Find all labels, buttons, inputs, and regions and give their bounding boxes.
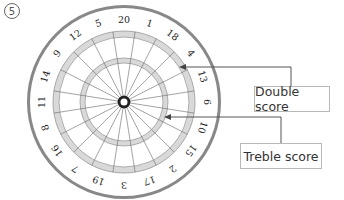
segment-number-20: 20 [118,14,130,25]
segment-number-6: 6 [202,99,213,105]
treble-score-text: Treble score [243,149,318,164]
bullseye-center [122,100,127,105]
double-score-label: Double score [254,86,330,112]
dartboard: 2011841361015217319716811149125 [29,7,220,198]
segment-number-3: 3 [121,180,127,191]
double-score-text: Double score [255,84,329,114]
segment-number-11: 11 [36,96,47,108]
treble-score-label: Treble score [240,143,322,169]
